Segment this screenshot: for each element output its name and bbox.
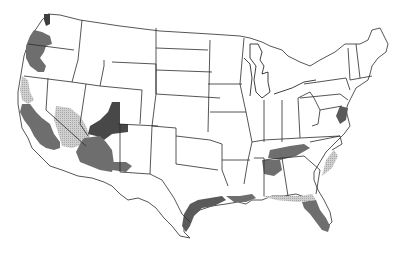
us-map	[0, 0, 406, 257]
us-map-svg	[0, 0, 406, 257]
